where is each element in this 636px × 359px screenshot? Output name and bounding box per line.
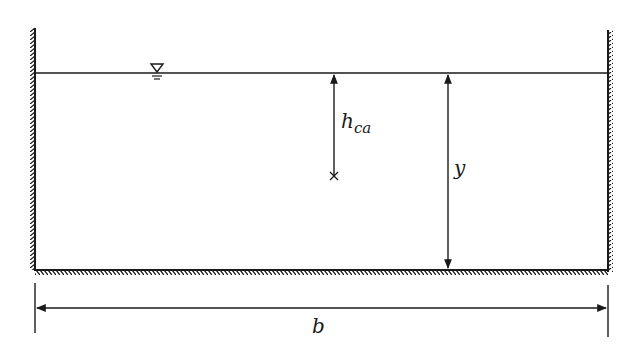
left-wall [30, 28, 35, 270]
hca-dimension-arrow [330, 75, 338, 180]
hca-label: hca [341, 109, 371, 137]
depth-label: y [453, 156, 466, 180]
channel-bed [34, 270, 609, 275]
water-surface-triangle-icon [151, 64, 163, 79]
right-wall [608, 30, 613, 272]
width-label: b [312, 314, 325, 338]
